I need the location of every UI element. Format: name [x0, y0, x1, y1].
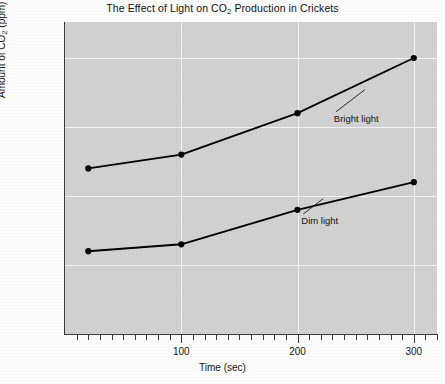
x-tick-minor [170, 335, 171, 340]
plot-area [65, 22, 437, 334]
x-tick-major [298, 335, 299, 343]
gridline-horizontal [65, 265, 437, 266]
x-tick-major [414, 335, 415, 343]
chart-title: The Effect of Light on CO2 Production in… [0, 2, 445, 14]
x-tick-minor [321, 335, 322, 340]
x-tick-minor [100, 335, 101, 340]
x-tick-major [181, 335, 182, 343]
x-tick-minor [367, 335, 368, 340]
x-tick-minor [286, 335, 287, 340]
x-tick-minor [112, 335, 113, 340]
x-tick-minor [158, 335, 159, 340]
x-tick-minor [344, 335, 345, 340]
chart-title-after: Production in Crickets [231, 2, 338, 14]
x-axis-label: Time (sec) [0, 362, 445, 373]
x-tick-minor [391, 335, 392, 340]
x-tick-minor [193, 335, 194, 340]
chart-title-subscript: 2 [227, 7, 231, 16]
x-axis: 100200300 [65, 335, 438, 365]
x-tick-minor [356, 335, 357, 340]
x-tick-minor [425, 335, 426, 340]
x-tick-minor [402, 335, 403, 340]
x-tick-minor [379, 335, 380, 340]
y-axis: 5001000150020002500 [0, 22, 65, 335]
chart-figure: The Effect of Light on CO2 Production in… [0, 0, 445, 384]
x-tick-minor [77, 335, 78, 340]
x-tick-minor [216, 335, 217, 340]
x-tick-label: 300 [405, 346, 422, 357]
y-axis-label: Amount of CO2 (ppm) [0, 2, 7, 98]
x-tick-minor [263, 335, 264, 340]
y-axis-label-subscript: 2 [0, 30, 9, 34]
x-tick-label: 200 [289, 346, 306, 357]
x-tick-minor [274, 335, 275, 340]
gridline-horizontal [65, 127, 437, 128]
x-tick-minor [205, 335, 206, 340]
y-axis-label-after: (ppm) [0, 2, 7, 31]
gridline-horizontal [65, 58, 437, 59]
x-tick-minor [437, 335, 438, 340]
x-tick-label: 100 [173, 346, 190, 357]
gridline-vertical [298, 22, 299, 334]
x-tick-minor [135, 335, 136, 340]
gridline-vertical [414, 22, 415, 334]
x-tick-minor [123, 335, 124, 340]
x-tick-minor [332, 335, 333, 340]
x-tick-minor [251, 335, 252, 340]
annotation-dim-light: Dim light [301, 215, 338, 226]
x-tick-minor [146, 335, 147, 340]
annotation-bright-light: Bright light [334, 113, 379, 124]
x-tick-minor [309, 335, 310, 340]
gridline-horizontal [65, 196, 437, 197]
chart-title-before: The Effect of Light on CO [106, 2, 227, 14]
x-tick-minor [239, 335, 240, 340]
gridline-vertical [181, 22, 182, 334]
x-tick-minor [88, 335, 89, 340]
x-tick-minor [228, 335, 229, 340]
y-axis-label-before: Amount of CO [0, 35, 7, 98]
